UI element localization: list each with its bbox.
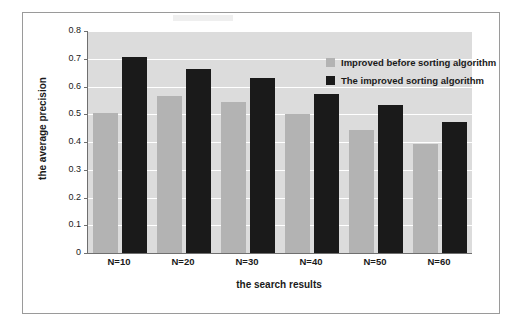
y-tick-mark [84,31,88,32]
y-tick-label: 0.3 [55,165,81,174]
y-tick-mark [84,225,88,226]
y-tick-label: 0.2 [55,193,81,202]
x-axis-tick-labels: N=10N=20N=30N=40N=50N=60 [87,256,471,272]
x-tick-label: N=60 [407,256,471,267]
y-tick-label: 0.1 [55,220,81,229]
bar [122,57,147,253]
y-tick-label: 0.4 [55,137,81,146]
legend-swatch-icon [326,76,335,85]
bar [442,122,467,253]
bar [186,69,211,253]
y-tick-mark [84,253,88,254]
x-tick-label: N=20 [151,256,215,267]
y-tick-mark [84,142,88,143]
legend-label: The improved sorting algorithm [341,75,484,86]
y-tick-label: 0.5 [55,109,81,118]
x-tick-label: N=40 [279,256,343,267]
x-tick-label: N=30 [215,256,279,267]
y-tick-label: 0.6 [55,82,81,91]
y-tick-label: 0 [55,248,81,257]
legend-label: Improved before sorting algorithm [341,57,496,68]
bar [250,78,275,253]
scan-artifact [173,15,233,21]
bar [378,105,403,253]
bar [93,113,118,253]
y-tick-mark [84,170,88,171]
bar [221,102,246,253]
y-axis-title: the average precision [37,64,48,194]
y-axis-tick-labels: 00.10.20.30.40.50.60.70.8 [51,31,81,253]
bar [349,130,374,253]
y-tick-label: 0.7 [55,54,81,63]
y-tick-mark [84,87,88,88]
legend-item: The improved sorting algorithm [326,75,496,86]
bar [314,94,339,253]
chart-legend: Improved before sorting algorithm The im… [326,57,496,93]
gridline [88,31,472,32]
legend-swatch-icon [326,58,335,67]
y-tick-mark [84,114,88,115]
x-tick-label: N=10 [87,256,151,267]
y-tick-label: 0.8 [55,26,81,35]
legend-item: Improved before sorting algorithm [326,57,496,68]
bar [285,114,310,253]
chart-figure: the average precision 00.10.20.30.40.50.… [22,12,500,314]
y-tick-mark [84,198,88,199]
bar [413,144,438,253]
y-tick-mark [84,59,88,60]
x-axis-title: the search results [87,279,471,290]
plot-area: Improved before sorting algorithm The im… [87,31,472,254]
bar [157,96,182,253]
x-tick-label: N=50 [343,256,407,267]
